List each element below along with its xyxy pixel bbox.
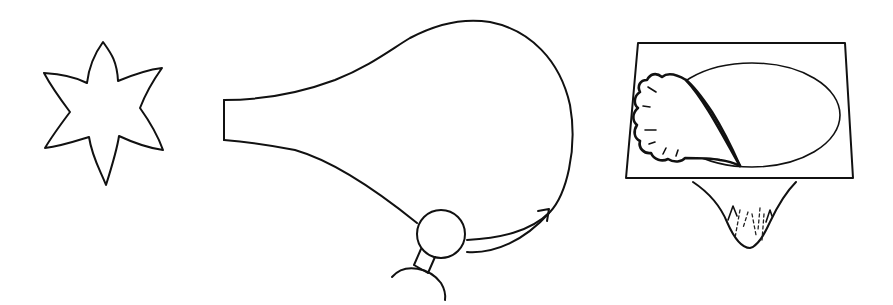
illustration-canvas — [0, 0, 893, 305]
sphere — [417, 210, 465, 258]
lower-arc — [392, 268, 445, 300]
star-outline-icon — [44, 42, 163, 185]
flask-lower-edge — [224, 140, 417, 223]
bulb-figure — [224, 21, 573, 300]
tray-figure — [626, 43, 853, 248]
funnel-fringe — [728, 206, 772, 222]
funnel-dashes — [735, 208, 764, 240]
star-figure — [44, 42, 163, 185]
funnel-outline — [693, 182, 796, 248]
rotation-arrow-icon — [467, 213, 549, 252]
